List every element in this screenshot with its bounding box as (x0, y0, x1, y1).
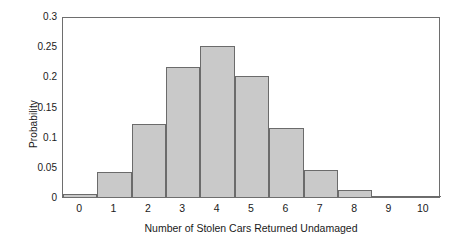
bars-container (63, 18, 439, 197)
bar (269, 128, 303, 197)
bar (338, 190, 372, 197)
y-axis-tick-label: 0.25 (0, 41, 57, 53)
bar (63, 194, 97, 197)
y-axis-title: Probability (22, 0, 44, 248)
x-axis-tick-label: 1 (102, 201, 126, 215)
bar (235, 76, 269, 197)
bar (304, 170, 338, 197)
bar (166, 67, 200, 197)
bar (200, 46, 234, 197)
x-axis-tick-label: 7 (308, 201, 332, 215)
bar (97, 172, 131, 197)
x-axis-tick-label: 10 (411, 201, 435, 215)
x-axis-tick-label: 5 (239, 201, 263, 215)
x-axis-tick-label: 3 (170, 201, 194, 215)
y-axis-tick-label: 0.15 (0, 102, 57, 114)
y-axis-tick-label: 0.2 (0, 71, 57, 83)
x-axis-tick-label: 9 (376, 201, 400, 215)
x-axis-tick-label: 4 (205, 201, 229, 215)
x-axis-tick-label: 2 (136, 201, 160, 215)
histogram-figure: Probability 00.050.10.150.20.250.3 01234… (0, 0, 457, 248)
y-axis-tick-label: 0.3 (0, 11, 57, 23)
bar (407, 196, 441, 197)
x-axis-tick-label: 0 (67, 201, 91, 215)
y-axis-tick-label: 0 (0, 192, 57, 204)
y-axis-tick-label: 0.05 (0, 162, 57, 174)
x-axis-tick-label: 6 (273, 201, 297, 215)
y-axis-tick-label: 0.1 (0, 132, 57, 144)
x-axis-tick-label: 8 (342, 201, 366, 215)
bar (372, 196, 406, 197)
x-axis-title: Number of Stolen Cars Returned Undamaged (62, 222, 440, 234)
plot-area (62, 17, 440, 198)
bar (132, 124, 166, 197)
